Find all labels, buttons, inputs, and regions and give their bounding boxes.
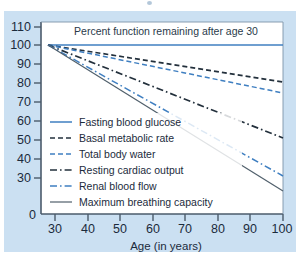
x-tick-label: 80 [211, 222, 225, 236]
x-axis-ticks [55, 214, 283, 221]
y-axis-tick-labels: 110 100 90 80 70 60 50 40 30 0 [10, 20, 36, 222]
x-tick-label: 50 [113, 222, 127, 236]
legend-label: Basal metabolic rate [79, 132, 174, 144]
line-chart: 110 100 90 80 70 60 50 40 30 0 30 40 50 … [0, 0, 300, 259]
chart-legend: Fasting blood glucose Basal metabolic ra… [47, 113, 242, 212]
y-axis-ticks [34, 27, 41, 178]
x-axis-tick-labels: 30 40 50 60 70 80 90 100 [48, 222, 292, 236]
legend-label: Maximum breathing capacity [79, 196, 213, 208]
x-tick-label: 100 [272, 222, 293, 236]
legend-label: Renal blood flow [79, 180, 157, 192]
y-tick-label: 80 [17, 76, 31, 90]
figure-container: 110 100 90 80 70 60 50 40 30 0 30 40 50 … [0, 0, 300, 259]
y-tick-label: 40 [17, 152, 31, 166]
y-axis-zero-label: 0 [29, 208, 36, 222]
y-tick-label: 50 [17, 133, 31, 147]
y-tick-label: 110 [11, 20, 31, 34]
y-tick-label: 60 [17, 114, 31, 128]
y-tick-label: 70 [17, 95, 31, 109]
x-tick-label: 90 [243, 222, 257, 236]
x-tick-label: 30 [48, 222, 62, 236]
x-tick-label: 70 [178, 222, 192, 236]
legend-label: Fasting blood glucose [79, 116, 181, 128]
y-tick-label: 100 [10, 38, 31, 52]
y-tick-label: 90 [17, 57, 31, 71]
x-axis-title: Age (in years) [130, 240, 202, 252]
legend-label: Resting cardiac output [79, 164, 184, 176]
x-tick-label: 40 [81, 222, 95, 236]
x-tick-label: 60 [146, 222, 160, 236]
y-tick-label: 30 [17, 171, 31, 185]
legend-label: Total body water [79, 148, 156, 160]
chart-title: Percent function remaining after age 30 [74, 25, 258, 37]
